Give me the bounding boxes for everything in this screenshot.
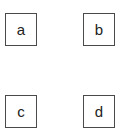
box-d-label: d — [95, 103, 103, 120]
box-d: d — [83, 95, 115, 128]
box-c: c — [5, 95, 37, 128]
box-a: a — [5, 13, 37, 46]
box-b: b — [83, 13, 115, 46]
box-a-label: a — [17, 21, 25, 38]
box-b-label: b — [95, 21, 103, 38]
box-c-label: c — [17, 103, 25, 120]
